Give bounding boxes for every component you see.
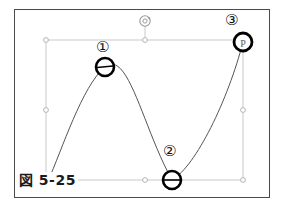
anchor-point-1-label: ①: [96, 40, 109, 55]
handle-top-center[interactable]: [143, 38, 148, 43]
handle-top-left[interactable]: [44, 38, 49, 43]
anchor-point-1[interactable]: [96, 58, 114, 76]
handle-middle-right[interactable]: [241, 108, 246, 113]
handle-bottom-right[interactable]: [241, 178, 246, 183]
figure-caption: 図 5-25: [18, 172, 78, 189]
anchor-point-2-label: ②: [163, 144, 176, 159]
rotate-icon[interactable]: [140, 16, 151, 26]
anchor-point-3-label: ③: [225, 13, 238, 28]
pen-tool-cursor: P: [240, 38, 246, 49]
anchor-point-2[interactable]: [163, 171, 181, 189]
handle-bottom-center[interactable]: [143, 178, 148, 183]
figure-screenshot: P ① ② ③ 図 5-25: [0, 0, 283, 207]
anchor-point-3[interactable]: P: [234, 33, 252, 51]
handle-middle-left[interactable]: [44, 108, 49, 113]
path-selection-bounding-box[interactable]: [44, 16, 246, 183]
bezier-curve[interactable]: [48, 42, 243, 181]
selection-rectangle: [46, 40, 243, 180]
